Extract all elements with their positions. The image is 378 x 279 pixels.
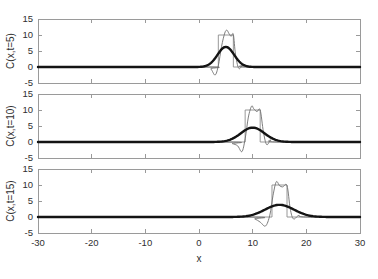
y-tick-label: 5 [28, 120, 33, 131]
subplot-3-svg: -5051015-30-20-100102030C(x,t=15)x [0, 150, 378, 279]
subplot-panel-3: -5051015-30-20-100102030C(x,t=15)x [0, 150, 378, 279]
x-tick-label: -30 [31, 237, 45, 248]
series-oscillatory-numerical [38, 30, 360, 75]
x-tick-label: 20 [301, 237, 312, 248]
y-tick-label: 5 [28, 45, 33, 56]
series-box-pulse [38, 110, 360, 142]
y-axis-label: C(x,t=10) [5, 105, 16, 146]
series-gaussian-analytic [38, 205, 360, 217]
figure-container: -5051015C(x,t=5) -5051015C(x,t=10) -5051… [0, 0, 378, 279]
plot-frame [39, 95, 361, 159]
x-tick-label: 0 [196, 237, 201, 248]
y-tick-label: 0 [28, 61, 33, 72]
y-tick-label: 5 [28, 195, 33, 206]
x-axis-label: x [197, 253, 202, 264]
x-tick-label: -20 [85, 237, 99, 248]
y-tick-label: 0 [28, 136, 33, 147]
series-gaussian-analytic [38, 128, 360, 142]
x-tick-label: -10 [138, 237, 152, 248]
x-tick-label: 10 [247, 237, 258, 248]
series-gaussian-analytic [38, 47, 360, 67]
plot-frame [39, 170, 361, 234]
series-oscillatory-numerical [38, 106, 360, 152]
series-box-pulse [38, 185, 360, 217]
series-box-pulse [38, 35, 360, 67]
y-axis-label: C(x,t=5) [5, 33, 16, 69]
y-tick-label: 10 [22, 29, 33, 40]
subplot-3-axes: -5051015-30-20-100102030C(x,t=15)x [5, 163, 365, 264]
plot-frame [39, 20, 361, 84]
y-tick-label: 15 [22, 13, 33, 24]
y-tick-label: 10 [22, 179, 33, 190]
y-tick-label: 15 [22, 163, 33, 174]
y-tick-label: 0 [28, 211, 33, 222]
y-tick-label: 15 [22, 88, 33, 99]
y-axis-label: C(x,t=15) [5, 180, 16, 221]
series-oscillatory-numerical [38, 181, 360, 226]
y-tick-label: 10 [22, 104, 33, 115]
x-tick-label: 30 [355, 237, 366, 248]
